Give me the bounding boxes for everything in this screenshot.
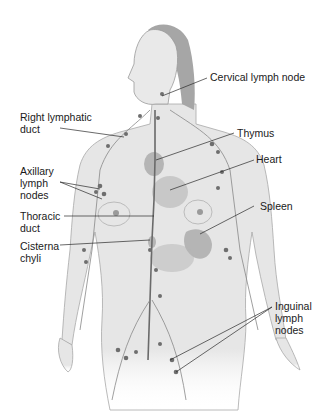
- label-axillary-lymph-nodes: Axillary lymph nodes: [20, 165, 54, 201]
- label-spleen: Spleen: [260, 200, 293, 212]
- heart-organ: [152, 176, 188, 208]
- label-thoracic-duct: Thoracic duct: [20, 210, 60, 234]
- label-cervical-lymph-node: Cervical lymph node: [210, 71, 305, 83]
- label-cisterna-chyli: Cisterna chyli: [20, 240, 59, 264]
- head: [128, 30, 178, 105]
- label-heart: Heart: [256, 153, 282, 165]
- lymphatic-diagram: Cervical lymph node Right lymphatic duct…: [0, 0, 328, 420]
- label-right-lymphatic-duct: Right lymphatic duct: [20, 111, 92, 135]
- label-inguinal-lymph-nodes: Inguinal lymph nodes: [275, 300, 312, 336]
- label-thymus: Thymus: [237, 127, 274, 139]
